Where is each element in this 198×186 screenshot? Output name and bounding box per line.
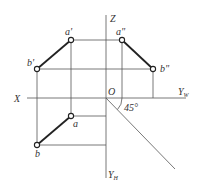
label-z: Z xyxy=(110,13,116,24)
label-b-front: b' xyxy=(27,57,35,68)
point-b-front xyxy=(34,66,39,71)
label-yw: YW xyxy=(178,86,190,98)
point-a-front xyxy=(68,37,73,42)
segment-top-view xyxy=(37,116,71,145)
label-b-side: b" xyxy=(160,63,170,74)
label-x: X xyxy=(13,93,21,104)
label-origin: O xyxy=(108,86,115,97)
point-b-top xyxy=(34,142,39,147)
arc-45 xyxy=(118,98,123,110)
label-a-top: a xyxy=(73,118,78,129)
label-yh: YH xyxy=(108,169,119,181)
segment-front-view xyxy=(37,40,71,69)
segment-side-view xyxy=(122,40,153,69)
point-a-side xyxy=(119,37,124,42)
45-degree-line xyxy=(106,98,175,169)
label-angle: 45° xyxy=(124,102,138,113)
label-a-side: a" xyxy=(116,26,126,37)
label-a-front: a' xyxy=(65,26,73,37)
point-b-side xyxy=(150,66,155,71)
label-b-top: b xyxy=(35,148,40,159)
projection-diagram: Z X O YW YH 45° a' b' a" b" a b xyxy=(0,0,198,186)
